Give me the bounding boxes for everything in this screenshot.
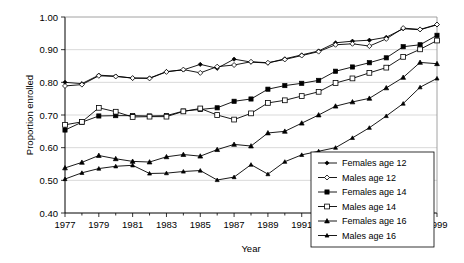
datapoint-3-1977: [63, 122, 68, 127]
datapoint-3-1985: [198, 106, 203, 111]
x-tick-label-1991: 1991: [291, 219, 312, 230]
y-axis-title: Proportion enrolled: [24, 75, 35, 155]
datapoint-2-1993: [333, 69, 337, 73]
datapoint-3-1978: [80, 119, 85, 124]
y-tick-label-0.50: 0.50: [40, 175, 59, 186]
datapoint-3-1984: [181, 109, 186, 114]
datapoint-2-1991: [300, 81, 304, 85]
datapoint-2-1999: [435, 33, 439, 37]
datapoint-3-1989: [266, 101, 271, 106]
y-tick-label-0.70: 0.70: [40, 110, 59, 121]
legend-label-4[interactable]: Females age 16: [342, 216, 407, 226]
datapoint-2-1990: [283, 84, 287, 88]
y-tick-label-0.40: 0.40: [40, 208, 59, 219]
x-tick-label-1985: 1985: [190, 219, 211, 230]
x-axis-title: Year: [241, 243, 260, 254]
x-tick-label-1987: 1987: [224, 219, 245, 230]
y-tick-label-0.90: 0.90: [40, 44, 59, 55]
legend-label-0[interactable]: Females age 12: [342, 158, 407, 168]
legend-label-3[interactable]: Males age 14: [342, 202, 396, 212]
datapoint-2-1997: [401, 45, 405, 49]
datapoint-3-1996: [384, 65, 389, 70]
datapoint-3-1981: [130, 115, 135, 120]
datapoint-3-1987: [232, 117, 237, 122]
datapoint-3-1980: [113, 109, 118, 114]
y-tick-label-0.60: 0.60: [40, 142, 59, 153]
datapoint-2-1994: [350, 65, 354, 69]
datapoint-2-1998: [418, 43, 422, 47]
datapoint-3-1992: [316, 89, 321, 94]
chart-container: 0.400.500.600.700.800.901.00 19771979198…: [0, 0, 464, 263]
datapoint-2-1979: [97, 114, 101, 118]
x-tick-label-1977: 1977: [54, 219, 75, 230]
datapoint-2-1977: [63, 128, 67, 132]
x-tick-label-1981: 1981: [122, 219, 143, 230]
legend-label-2[interactable]: Females age 14: [342, 187, 407, 197]
datapoint-3-1999: [435, 38, 440, 43]
datapoint-2-1995: [367, 61, 371, 65]
chart-legend: Females age 12Males age 12Females age 14…: [311, 152, 434, 247]
datapoint-3-1986: [215, 113, 220, 118]
x-tick-label-1979: 1979: [88, 219, 109, 230]
y-tick-label-0.80: 0.80: [40, 77, 59, 88]
datapoint-3-1990: [282, 98, 287, 103]
datapoint-3-1994: [350, 76, 355, 81]
enrollment-line-chart: 0.400.500.600.700.800.901.00 19771979198…: [0, 0, 464, 263]
datapoint-3-1979: [96, 105, 101, 110]
x-tick-label-1983: 1983: [156, 219, 177, 230]
x-tick-label-1989: 1989: [257, 219, 278, 230]
datapoint-3-1982: [147, 114, 152, 119]
legend-marker-3: [325, 204, 330, 209]
datapoint-2-1992: [317, 78, 321, 82]
legend-label-5[interactable]: Males age 16: [342, 231, 396, 241]
datapoint-2-1996: [384, 56, 388, 60]
datapoint-2-1987: [232, 99, 236, 103]
datapoint-3-1997: [401, 54, 406, 59]
datapoint-3-1983: [164, 114, 169, 119]
y-tick-label-1.00: 1.00: [40, 12, 59, 23]
legend-marker-2: [325, 190, 329, 194]
legend-label-1[interactable]: Males age 12: [342, 173, 396, 183]
datapoint-3-1998: [418, 47, 423, 52]
datapoint-3-1993: [333, 81, 338, 86]
datapoint-2-1988: [249, 97, 253, 101]
datapoint-3-1988: [249, 111, 254, 116]
datapoint-3-1991: [299, 94, 304, 99]
datapoint-3-1995: [367, 70, 372, 75]
datapoint-2-1986: [215, 106, 219, 110]
datapoint-2-1989: [266, 87, 270, 91]
